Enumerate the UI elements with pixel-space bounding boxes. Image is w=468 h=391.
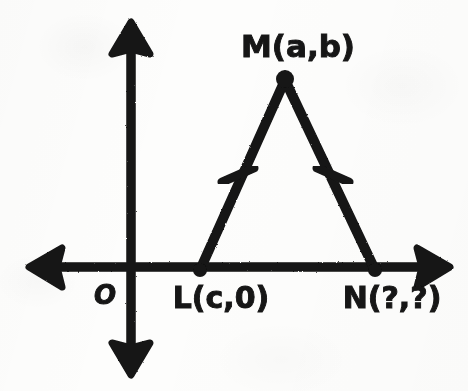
x-axis-left-arrow-icon [29, 248, 62, 287]
vertex-dot-L [193, 263, 207, 277]
triangle-LMN [200, 80, 375, 270]
vertex-dot-M [276, 70, 294, 88]
tick-mark-right-leg-icon [317, 168, 349, 182]
y-axis-down-arrow-icon [112, 343, 150, 375]
vertex-dots [193, 70, 382, 277]
tick-mark-left-leg-icon [222, 168, 254, 182]
coordinate-plane-sketch: M(a,b) O L(c,0) N(?,?) [0, 0, 468, 391]
y-axis-up-arrow-icon [112, 22, 150, 54]
label-vertex-N: N(?,?) [343, 280, 442, 315]
figure-labels: M(a,b) O L(c,0) N(?,?) [94, 28, 441, 315]
label-vertex-M: M(a,b) [241, 28, 355, 64]
axes-group [29, 22, 450, 375]
vertex-dot-N [368, 263, 382, 277]
label-vertex-L: L(c,0) [173, 280, 270, 315]
geometry-figure-canvas: M(a,b) O L(c,0) N(?,?) [0, 0, 468, 391]
label-origin-O: O [94, 280, 116, 310]
